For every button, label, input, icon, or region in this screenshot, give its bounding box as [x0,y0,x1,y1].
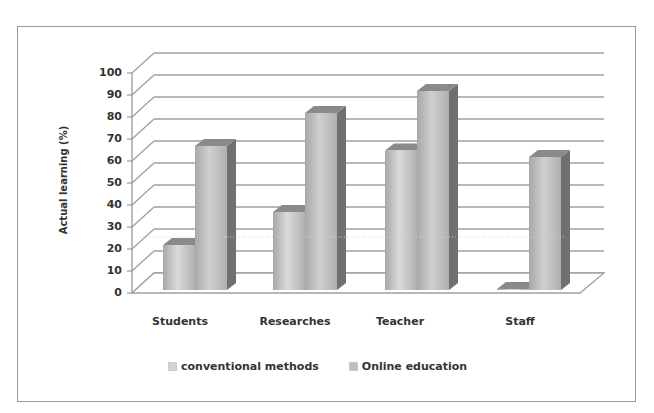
bar-teacher-conventional [385,150,417,290]
gridline-side-70 [132,119,154,139]
y-tick-label-10: 10 [82,265,122,277]
y-tick-label-100: 100 [82,67,122,79]
bar-students-online [195,146,227,290]
legend-item-online: Online education [349,360,467,373]
legend-swatch-online [349,362,358,371]
bar-researches-conventional [273,212,305,290]
gridline-side-40 [132,185,154,205]
y-tick-label-90: 90 [82,89,122,101]
y-axis-title: Actual learning (%) [58,126,69,235]
y-tick-label-0: 0 [82,287,122,299]
bar-staff-conventional [497,289,529,290]
gridline-side-90 [132,75,154,95]
bar-side-teacher-1 [449,84,458,290]
gridline-side-20 [132,229,154,249]
legend-swatch-conventional [168,362,177,371]
y-tick-label-40: 40 [82,199,122,211]
x-category-label-staff: Staff [475,315,565,328]
gridline-side-60 [132,141,154,161]
y-tick-label-60: 60 [82,155,122,167]
gridline-side-80 [132,97,154,117]
bar-side-researches-1 [337,106,346,290]
x-category-label-students: Students [135,315,225,328]
x-category-label-researches: Researches [250,315,340,328]
gridline-side-100 [132,53,154,73]
bar-staff-online [529,157,561,290]
legend-item-conventional: conventional methods [168,360,319,373]
x-category-label-teacher: Teacher [355,315,445,328]
legend-label-conventional: conventional methods [181,360,319,373]
bar-students-conventional [163,245,195,290]
bar-side-students-1 [227,139,236,290]
y-tick-label-80: 80 [82,111,122,123]
bar-researches-online [305,113,337,290]
bar-side-staff-1 [561,150,570,290]
y-tick-label-50: 50 [82,177,122,189]
legend-label-online: Online education [362,360,467,373]
gridline-side-30 [132,207,154,227]
legend: conventional methods Online education [168,360,497,373]
y-tick-label-70: 70 [82,133,122,145]
y-tick-label-30: 30 [82,221,122,233]
bar-teacher-online [417,91,449,290]
gridline-side-50 [132,163,154,183]
gridline-side-10 [132,251,154,271]
y-tick-label-20: 20 [82,243,122,255]
